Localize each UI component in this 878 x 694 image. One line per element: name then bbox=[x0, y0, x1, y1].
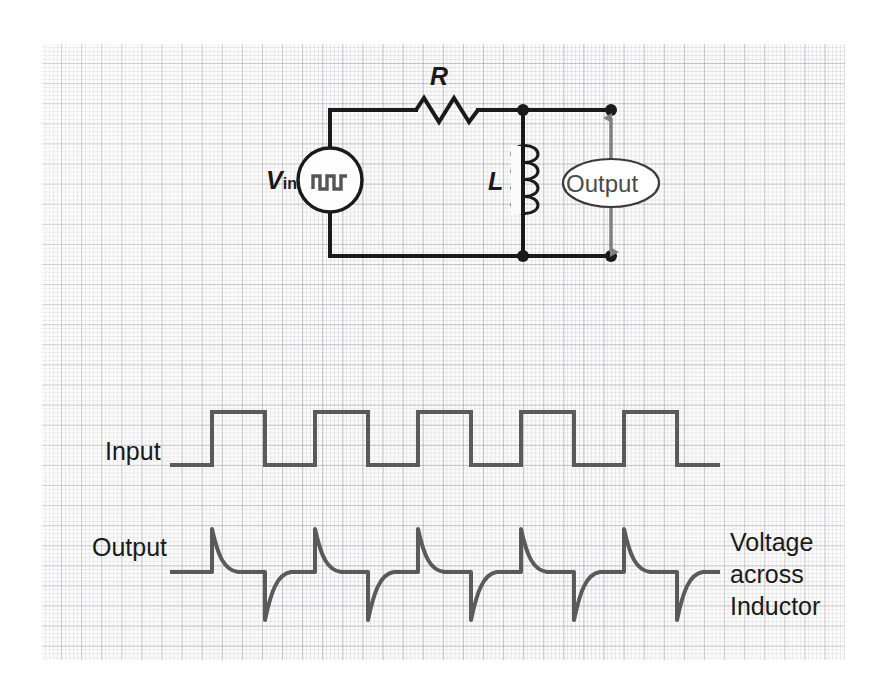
resistor-label: R bbox=[430, 62, 448, 92]
input-waveform-label: Input bbox=[105, 437, 161, 467]
source-label-main: V bbox=[266, 166, 283, 194]
output-waveform-path bbox=[170, 529, 720, 620]
terminal-dot-top-right bbox=[605, 104, 617, 116]
junction-dot-top-node bbox=[517, 104, 529, 116]
figure-artwork bbox=[0, 0, 878, 694]
inductor-symbol bbox=[511, 145, 538, 214]
inductor-label: L bbox=[488, 167, 503, 197]
source-label: Vin bbox=[266, 166, 297, 196]
output-waveform-label: Output bbox=[92, 533, 167, 563]
source-label-sub: in bbox=[283, 175, 297, 192]
annotation-line-voltage: Voltage bbox=[730, 528, 813, 558]
annotation-line-inductor: Inductor bbox=[730, 592, 820, 622]
junction-dot-bottom-node bbox=[517, 250, 529, 262]
output-ellipse-label: Output bbox=[566, 170, 638, 198]
figure-root: Vin R L Output Input Output Voltage acro… bbox=[0, 0, 878, 694]
voltage-source-symbol bbox=[298, 148, 362, 212]
input-waveform-path bbox=[170, 412, 720, 465]
annotation-line-across: across bbox=[730, 560, 804, 590]
resistor-symbol bbox=[416, 98, 478, 122]
